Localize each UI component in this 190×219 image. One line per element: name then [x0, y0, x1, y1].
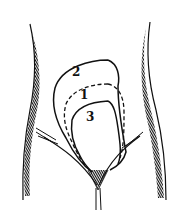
- diagram-canvas: 2 1 3: [0, 0, 190, 219]
- label-2: 2: [72, 65, 80, 79]
- left-flank: [23, 24, 58, 200]
- label-1: 1: [80, 88, 88, 102]
- right-flank: [122, 22, 166, 200]
- label-3: 3: [86, 110, 94, 124]
